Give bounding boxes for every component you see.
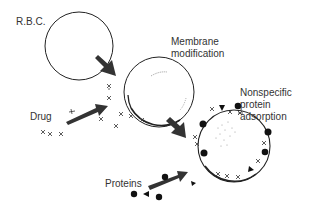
arrow-modified-to-adsorbed	[166, 117, 186, 138]
label-nonspecific-line2: protein	[240, 99, 271, 110]
arrow-rbc-to-modified	[95, 55, 116, 76]
label-nonspecific-line3: adsorption	[240, 111, 287, 122]
label-membrane-line2: modification	[171, 48, 224, 59]
arrow-drug	[66, 104, 108, 125]
label-membrane-line1: Membrane	[171, 36, 219, 47]
drug-free-molecules	[41, 109, 118, 136]
label-nonspecific-line1: Nonspecific	[240, 87, 292, 98]
arrow-proteins	[148, 171, 188, 190]
label-drug: Drug	[30, 111, 52, 122]
label-rbc: R.B.C.	[16, 16, 45, 27]
membrane-modified-cell	[124, 57, 194, 127]
label-proteins: Proteins	[105, 178, 142, 189]
